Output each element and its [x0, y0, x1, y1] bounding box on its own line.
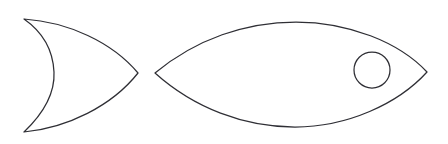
fish-figure: Fish line drawing Simple black outline d… [0, 0, 448, 144]
drawing-canvas: Fish line drawing Simple black outline d… [0, 0, 448, 144]
